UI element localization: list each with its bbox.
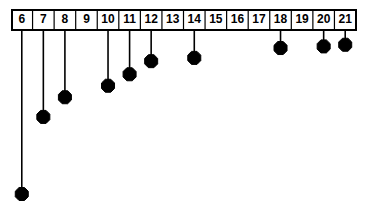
axis-tick-label-6: 6 xyxy=(18,12,25,26)
axis-tick-label-16: 16 xyxy=(231,12,245,26)
stem-marker-6 xyxy=(15,188,28,201)
axis-tick-label-8: 8 xyxy=(62,12,69,26)
axis-tick-label-7: 7 xyxy=(40,12,47,26)
axis-tick-label-21: 21 xyxy=(339,12,353,26)
stem-marker-12 xyxy=(145,55,158,68)
stem-marker-8 xyxy=(58,91,71,104)
stem-marker-14 xyxy=(188,51,201,64)
stem-marker-7 xyxy=(37,110,50,123)
stem-plot-canvas: 6789101112131415161718192021 xyxy=(0,0,369,211)
axis-tick-label-20: 20 xyxy=(317,12,331,26)
stem-marker-21 xyxy=(339,38,352,51)
axis-cell-dividers xyxy=(33,10,335,29)
axis-tick-label-19: 19 xyxy=(295,12,309,26)
axis-tick-label-10: 10 xyxy=(101,12,115,26)
axis-tick-label-13: 13 xyxy=(166,12,180,26)
axis-tick-label-17: 17 xyxy=(252,12,266,26)
axis-tick-label-18: 18 xyxy=(274,12,288,26)
stem-marker-18 xyxy=(274,42,287,55)
axis-tick-label-14: 14 xyxy=(188,12,202,26)
stem-marker-11 xyxy=(123,68,136,81)
stem-plot-figure: 6789101112131415161718192021 xyxy=(0,0,369,211)
axis-tick-label-11: 11 xyxy=(123,12,136,26)
stems-layer xyxy=(15,30,351,201)
axis-tick-label-15: 15 xyxy=(209,12,223,26)
stem-marker-20 xyxy=(317,40,330,53)
axis-tick-labels: 6789101112131415161718192021 xyxy=(18,12,352,26)
axis-layer: 6789101112131415161718192021 xyxy=(12,10,356,30)
axis-tick-label-9: 9 xyxy=(83,12,90,26)
axis-tick-label-12: 12 xyxy=(144,12,158,26)
stem-marker-10 xyxy=(102,79,115,92)
